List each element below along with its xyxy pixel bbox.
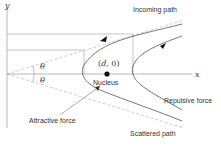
attractive-pointer (60, 87, 99, 115)
x-axis-label: x (195, 70, 200, 79)
attractive-arrowhead-icon (100, 36, 107, 42)
point-label: (d, 0) (98, 59, 120, 68)
scattering-diagram: y x θ θ (d, 0) Nucleus Incoming path Rep… (0, 0, 221, 154)
repulsive-force-label: Repulsive force (164, 97, 212, 105)
incoming-path-label: Incoming path (133, 6, 177, 14)
nucleus-dot (104, 71, 109, 76)
theta-lower-label: θ (40, 76, 45, 85)
y-axis-label: y (4, 1, 10, 10)
theta-upper-label: θ (40, 62, 45, 71)
attractive-force-label: Attractive force (29, 117, 76, 124)
nucleus-label: Nucleus (93, 79, 119, 86)
attractive-pointer-arrowhead-icon (95, 86, 100, 91)
scattered-path-label: Scattered path (130, 130, 176, 138)
asymptote-upper (7, 20, 184, 74)
